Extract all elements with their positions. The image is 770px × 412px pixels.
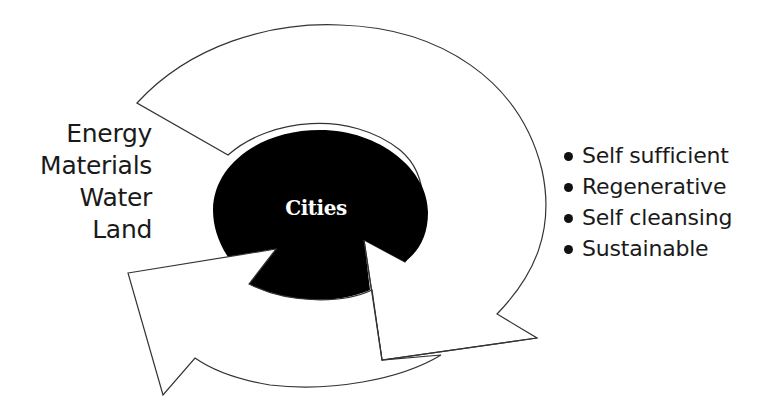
outcomes-list: Self sufficient Regenerative Self cleans…	[563, 140, 732, 264]
bullet-icon	[564, 152, 573, 161]
outcome-item: Self sufficient	[563, 140, 732, 171]
bullet-icon	[564, 214, 573, 223]
outcome-label: Sustainable	[582, 236, 708, 261]
input-water: Water	[40, 182, 152, 214]
outcome-label: Regenerative	[582, 174, 726, 199]
input-land: Land	[40, 214, 152, 246]
outcome-item: Sustainable	[563, 233, 732, 264]
input-energy: Energy	[40, 118, 152, 150]
outcome-item: Regenerative	[563, 171, 732, 202]
outcome-item: Self cleansing	[563, 202, 732, 233]
input-resources-list: Energy Materials Water Land	[40, 118, 152, 246]
bullet-icon	[564, 183, 573, 192]
cities-label: Cities	[266, 196, 366, 220]
outcome-label: Self cleansing	[582, 205, 732, 230]
input-materials: Materials	[40, 150, 152, 182]
bullet-icon	[564, 245, 573, 254]
outcome-label: Self sufficient	[582, 143, 729, 168]
